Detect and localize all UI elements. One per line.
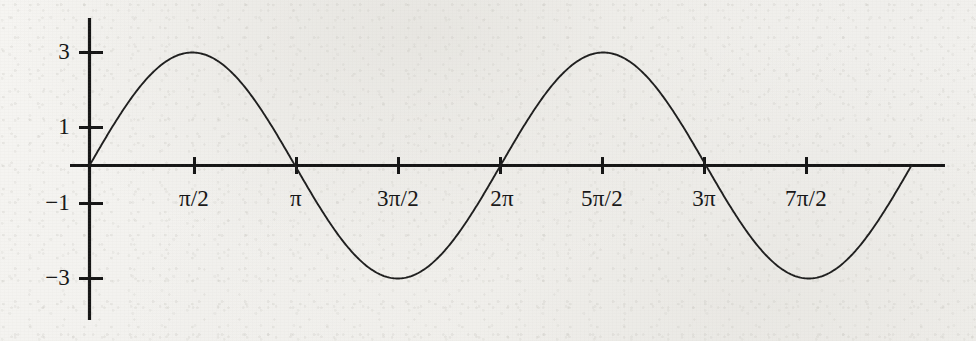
y-tick-label-minus-1: −1: [24, 190, 70, 216]
x-tick-label-7pi-over-2: 7π/2: [785, 186, 827, 212]
x-tick-label-3pi: 3π: [692, 186, 716, 212]
x-tick-label-5pi-over-2: 5π/2: [581, 186, 623, 212]
y-tick-label-minus-3: −3: [24, 265, 70, 291]
sine-wave-figure: π/2 π 3π/2 2π 5π/2 3π 7π/2 3 1 −1 −3: [0, 0, 976, 341]
plot-canvas: [0, 0, 976, 341]
x-tick-label-pi-over-2: π/2: [179, 186, 209, 212]
x-tick-label-3pi-over-2: 3π/2: [377, 186, 419, 212]
y-tick-label-1: 1: [40, 114, 70, 140]
y-tick-label-3: 3: [40, 39, 70, 65]
x-tick-label-pi: π: [290, 186, 302, 212]
x-tick-label-2pi: 2π: [490, 186, 514, 212]
